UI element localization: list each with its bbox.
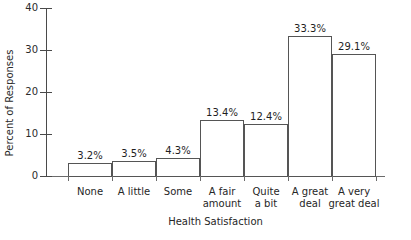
bar-chart: Percent of Responses 010203040 3.2%3.5%4…	[0, 0, 411, 240]
x-category-label-line1: None	[77, 186, 103, 197]
x-tick-mark	[68, 176, 69, 181]
y-tick-label: 30	[10, 45, 38, 55]
y-tick-label-text: 10	[12, 129, 38, 139]
x-tick-mark	[288, 176, 289, 181]
bar	[112, 161, 156, 177]
x-tick-mark	[200, 176, 201, 181]
bar-value-label: 33.3%	[280, 23, 340, 34]
bar-value-label: 12.4%	[236, 111, 296, 122]
x-category-label-line1: Some	[164, 186, 192, 197]
bar	[244, 124, 288, 177]
y-tick-label: 20	[10, 87, 38, 97]
x-tick-mark	[244, 176, 245, 181]
x-axis-title: Health Satisfaction	[46, 216, 385, 227]
y-axis-title-text: Percent of Responses	[4, 49, 15, 156]
bar	[332, 54, 376, 177]
y-tick-label-text: 40	[12, 3, 38, 13]
y-tick-mark	[40, 92, 52, 93]
x-category-label-line1: A fair	[209, 186, 236, 197]
y-tick-label: 40	[10, 3, 38, 13]
y-tick-mark	[40, 176, 52, 177]
x-category-label-line1: Quite	[252, 186, 279, 197]
y-tick-label: 10	[10, 129, 38, 139]
y-tick-label-text: 0	[12, 171, 38, 181]
y-tick-label: 0	[10, 171, 38, 181]
bar-value-label: 29.1%	[324, 41, 384, 52]
x-tick-mark	[332, 176, 333, 181]
bar-value-label: 4.3%	[148, 145, 208, 156]
y-tick-mark	[40, 8, 52, 9]
y-tick-label-text: 20	[12, 87, 38, 97]
x-category-label: A verygreat deal	[321, 186, 387, 210]
x-tick-mark	[112, 176, 113, 181]
x-category-label-line1: A very	[338, 186, 370, 197]
bar	[156, 158, 200, 177]
bar	[200, 120, 244, 177]
x-tick-mark	[156, 176, 157, 181]
x-category-label-line2: great deal	[321, 198, 387, 210]
y-tick-label-text: 30	[12, 45, 38, 55]
bar	[68, 163, 112, 177]
bar	[288, 36, 332, 177]
x-tick-mark	[376, 176, 377, 181]
y-tick-mark	[40, 134, 52, 135]
y-tick-mark	[40, 50, 52, 51]
